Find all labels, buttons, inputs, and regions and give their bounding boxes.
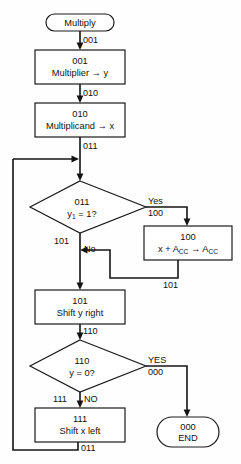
branch-label-no: No xyxy=(84,244,96,254)
op101-state-code: 101 xyxy=(72,296,88,306)
edge-label-loopback-code: 011 xyxy=(81,443,96,453)
edge-dec110-no: 111 NO xyxy=(53,392,98,408)
node-dec110: 110 y = 0? xyxy=(30,340,146,392)
op010-label: Multiplicand → x xyxy=(46,121,115,131)
arrow-head-icon xyxy=(77,283,84,291)
branch-label-yes: Yes xyxy=(148,196,163,206)
dec110-diamond-shape xyxy=(30,340,146,392)
flowchart-svg: Multiply 001 001 Multiplier → y 010 010 … xyxy=(0,0,241,464)
edge-loopback-join xyxy=(13,156,79,163)
branch-label-no2: NO xyxy=(84,394,98,404)
dec011-label-tail: = 1? xyxy=(76,209,97,219)
op111-state-code: 111 xyxy=(73,414,87,424)
edge-label-return-code: 101 xyxy=(163,280,178,290)
edge-dec011-yes: Yes 100 xyxy=(146,196,190,226)
op001-state-code: 001 xyxy=(72,56,88,66)
dec110-label: y = 0? xyxy=(69,368,95,378)
edge-label-start-001: 001 xyxy=(83,35,98,45)
op001-label: Multiplier → y xyxy=(52,68,109,78)
op100-label-b: → A xyxy=(188,244,209,254)
flowchart-canvas: Multiply 001 001 Multiplier → y 010 010 … xyxy=(0,0,241,464)
op010-state-code: 010 xyxy=(72,109,88,119)
edge-label-yes2-code: 000 xyxy=(148,367,163,377)
branch-label-yes2: YES xyxy=(148,355,166,365)
edge-op101-to-dec110: 110 xyxy=(77,324,98,340)
arrow-head-icon xyxy=(77,401,84,409)
arrow-head-icon xyxy=(77,174,84,182)
edge-start-to-op001: 001 xyxy=(77,31,99,50)
dec011-label: y1 = 1? xyxy=(67,209,96,220)
edge-label-no2-code: 111 xyxy=(53,394,67,404)
node-op001: 001 Multiplier → y xyxy=(35,50,125,84)
op100-label-b-sub: CC xyxy=(209,248,219,255)
op100-label-a: x + A xyxy=(158,244,180,254)
arrow-head-icon xyxy=(72,156,80,163)
edge-label-101-110: 110 xyxy=(83,326,98,336)
node-start-multiply: Multiply xyxy=(46,14,114,31)
edge-dec011-no: 101 No xyxy=(54,233,96,290)
edge-label-yes-code: 100 xyxy=(148,208,163,218)
node-op101: 101 Shift y right xyxy=(35,290,125,324)
end-terminal-label: END xyxy=(178,433,198,443)
edge-label-001-010: 010 xyxy=(83,88,98,98)
op100-label-a-sub: CC xyxy=(179,248,189,255)
arrow-head-icon xyxy=(184,410,191,418)
node-op100: 100 x + ACC → ACC xyxy=(144,226,232,260)
edge-label-no-code: 101 xyxy=(54,236,69,246)
dec110-state-code: 110 xyxy=(75,356,90,366)
node-dec011: 011 y1 = 1? xyxy=(30,181,146,233)
node-end-terminal: 000 END xyxy=(157,417,219,447)
node-op010: 010 Multiplicand → x xyxy=(35,103,125,137)
op100-state-code: 100 xyxy=(180,232,196,242)
start-terminal-label: Multiply xyxy=(64,18,96,28)
end-terminal-state-code: 000 xyxy=(180,422,196,432)
edge-dec110-yes: YES 000 xyxy=(146,355,190,417)
dec011-state-code: 011 xyxy=(75,197,90,207)
edge-op010-to-dec011: 011 xyxy=(77,137,98,181)
dec011-diamond-shape xyxy=(30,181,146,233)
arrow-head-icon xyxy=(184,219,191,227)
edge-op001-to-op010: 010 xyxy=(77,84,99,103)
op111-label: Shift x left xyxy=(60,426,101,436)
node-op111: 111 Shift x left xyxy=(35,408,125,442)
edge-label-010-011: 011 xyxy=(83,141,98,151)
op101-label: Shift y right xyxy=(57,308,104,318)
